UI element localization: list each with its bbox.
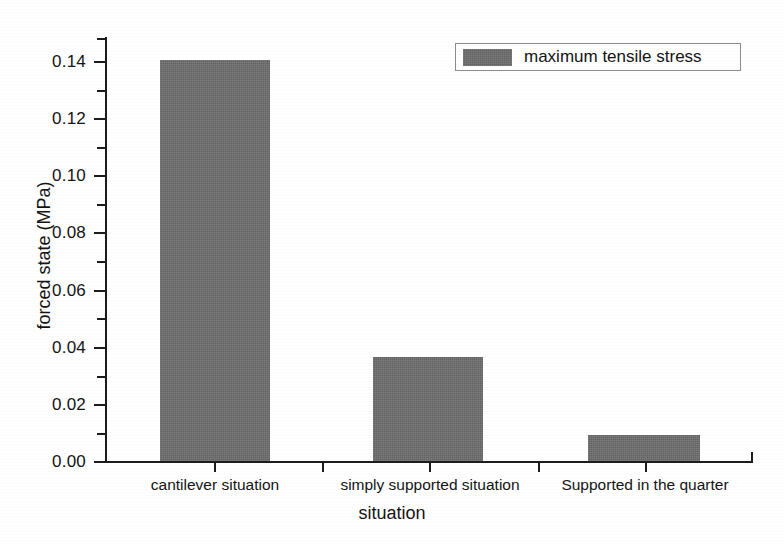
y-axis-minor-tick — [97, 318, 105, 320]
x-axis-tick-label-cantilever: cantilever situation — [151, 476, 279, 494]
legend-label-maximum-tensile-stress: maximum tensile stress — [524, 47, 702, 67]
x-axis-tick-label-simply-supported: simply supported situation — [340, 476, 519, 494]
y-axis-tick-0.02 — [94, 404, 105, 406]
bar-chart-figure: 0.00 0.02 0.04 0.06 0.08 0.10 0.12 0.14 … — [0, 0, 784, 544]
y-axis-minor-tick — [97, 90, 105, 92]
bar-supported-in-the-quarter — [588, 435, 700, 461]
y-axis-minor-tick — [97, 204, 105, 206]
y-axis-minor-tick — [97, 261, 105, 263]
y-axis-tick-0.08 — [94, 232, 105, 234]
bar-simply-supported-situation — [373, 357, 483, 461]
y-axis-minor-tick — [97, 433, 105, 435]
y-axis-minor-tick — [97, 376, 105, 378]
x-axis-title: situation — [0, 503, 784, 524]
y-axis-minor-tick — [97, 38, 105, 40]
legend-swatch-maximum-tensile-stress — [463, 49, 512, 66]
y-axis-tick-0.06 — [94, 290, 105, 292]
y-axis-spine — [105, 37, 107, 463]
y-axis-tick-label: 0.14 — [26, 53, 86, 70]
x-axis-tick-label-supported-quarter: Supported in the quarter — [561, 476, 728, 494]
y-axis-tick-0.14 — [94, 61, 105, 63]
y-axis-tick-0.00 — [94, 461, 105, 463]
y-axis-tick-0.04 — [94, 347, 105, 349]
x-axis-tick — [322, 462, 324, 472]
x-axis-tick — [429, 462, 431, 472]
y-axis-tick-0.10 — [94, 175, 105, 177]
x-axis-tick — [645, 462, 647, 472]
bar-cantilever-situation — [160, 60, 270, 461]
legend: maximum tensile stress — [455, 43, 741, 71]
y-axis-title: forced state (MPa) — [34, 106, 55, 406]
x-axis-end-tick — [751, 452, 753, 462]
y-axis-tick-0.12 — [94, 118, 105, 120]
x-axis-tick — [214, 462, 216, 472]
y-axis-tick-label: 0.00 — [26, 453, 86, 470]
y-axis-minor-tick — [97, 147, 105, 149]
x-axis-tick — [538, 462, 540, 472]
